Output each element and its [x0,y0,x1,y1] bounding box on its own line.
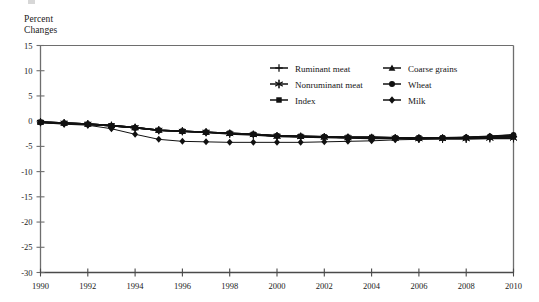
x-tick-label: 2000 [269,281,286,291]
circle-icon [180,128,186,134]
y-tick-label: -5 [25,141,32,151]
square-icon [276,97,281,102]
axes [41,46,514,273]
diamond-icon [132,131,138,138]
data-series-group [37,118,517,146]
y-tick-label: 15 [24,41,33,51]
plus-icon [275,64,283,72]
legend-label: Index [295,96,316,106]
x-tick-label: 1996 [174,281,191,291]
x-tick-label: 2010 [505,281,522,291]
y-tick-label: 10 [24,66,33,76]
circle-icon [227,130,233,136]
circle-icon [389,81,395,87]
y-tick-label: -25 [21,242,32,252]
x-tick-label: 2004 [363,281,381,291]
x-tick-label: 1990 [32,281,49,291]
legend-item-index[interactable]: Index [270,96,316,106]
x-axis-ticks: 1990199219941996199820002002200420062008… [32,269,522,291]
legend-item-ruminant-meat[interactable]: Ruminant meat [270,64,351,74]
circle-icon [132,125,138,131]
legend-label: Ruminant meat [295,64,351,74]
diamond-icon [156,136,162,143]
legend-label: Nonruminant meat [295,80,363,90]
x-tick-label: 1994 [127,281,145,291]
y-tick-label: 0 [28,116,32,126]
legend-label: Milk [408,96,426,106]
legend-item-wheat[interactable]: Wheat [383,80,432,90]
diamond-icon [179,138,185,145]
legend-label: Coarse grains [408,64,458,74]
diamond-icon [274,139,280,146]
circle-icon [203,129,209,135]
y-tick-label: -30 [21,268,32,278]
circle-icon [298,133,304,139]
y-tick-label: -20 [21,217,32,227]
chart-figure: Percent Changes 151050-5-10-15-20-25-30 … [0,0,539,302]
legend-label: Wheat [408,80,432,90]
diamond-icon [298,139,304,146]
diamond-icon [227,139,233,146]
x-tick-label: 2008 [458,281,475,291]
legend-item-milk[interactable]: Milk [383,96,426,106]
circle-icon [250,131,256,137]
y-tick-label: -10 [21,167,32,177]
y-tick-label: -15 [21,192,32,202]
legend-item-nonruminant-meat[interactable]: Nonruminant meat [270,80,363,90]
x-tick-label: 1998 [221,281,238,291]
y-tick-label: 5 [28,91,32,101]
circle-icon [156,127,162,133]
x-tick-label: 1992 [79,281,96,291]
diamond-icon [250,139,256,146]
diamond-icon [203,138,209,145]
legend-item-coarse-grains[interactable]: Coarse grains [383,64,458,74]
chart-legend: Ruminant meatNonruminant meatIndexCoarse… [270,64,458,106]
x-tick-label: 2002 [316,281,333,291]
x-tick-label: 2006 [410,281,427,291]
plot-canvas: 151050-5-10-15-20-25-30 1990199219941996… [0,0,539,302]
diamond-icon [389,96,395,103]
circle-icon [274,133,280,139]
